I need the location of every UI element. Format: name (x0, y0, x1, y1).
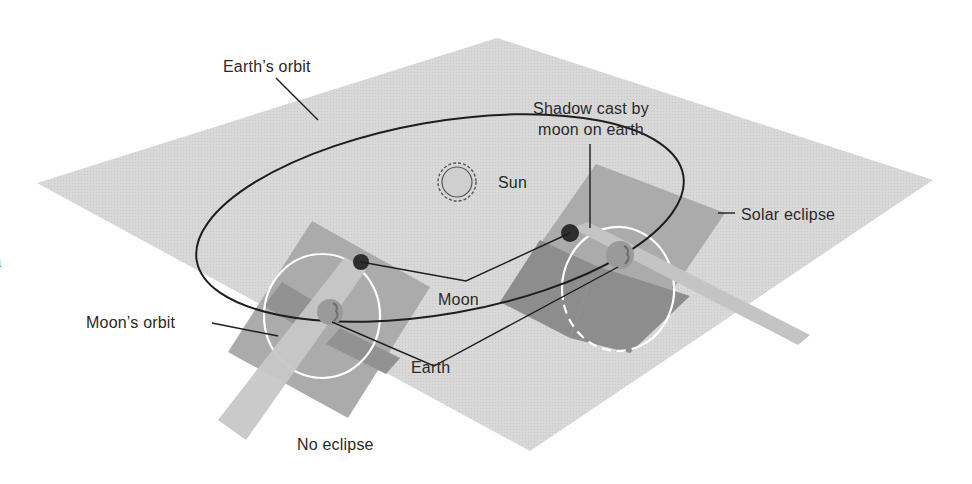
earth-icon-right (606, 241, 634, 269)
eclipse-diagram (0, 0, 972, 484)
edge-glyph: a (0, 253, 1, 271)
label-no-eclipse: No eclipse (297, 436, 374, 454)
label-moons-orbit: Moon’s orbit (86, 314, 175, 332)
label-earths-orbit: Earth’s orbit (223, 58, 311, 76)
label-moon: Moon (438, 291, 479, 309)
label-shadow-line1: Shadow cast by (521, 100, 661, 118)
label-shadow-line2: moon on earth (521, 121, 661, 139)
label-solar-eclipse: Solar eclipse (741, 206, 835, 224)
ecliptic-plane (37, 38, 933, 451)
earth-icon-left (317, 299, 343, 325)
label-sun: Sun (498, 174, 527, 192)
label-earth: Earth (411, 359, 450, 377)
